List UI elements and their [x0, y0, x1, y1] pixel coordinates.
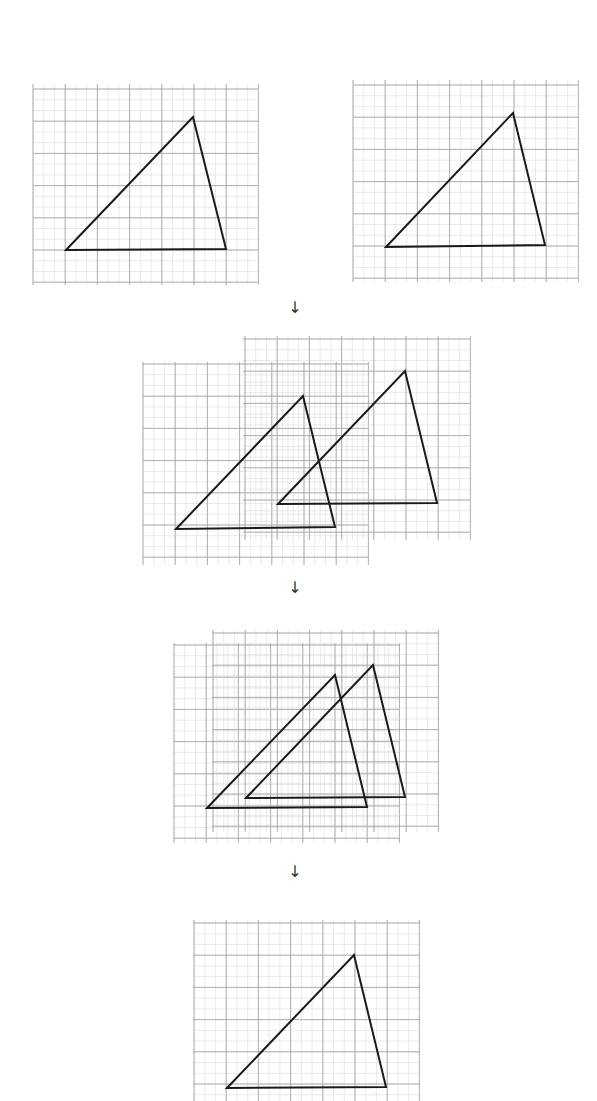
panel-step-4-result: [193, 920, 420, 1101]
down-arrow-icon: ↓: [285, 580, 305, 596]
panel-step-2-overlay: [143, 336, 470, 565]
panel-step-1-left: [33, 84, 258, 285]
grid-paper: [243, 336, 470, 540]
panel-step-1-right: [353, 80, 578, 282]
grid-paper: [33, 84, 258, 285]
triangle-shape: [66, 117, 226, 250]
triangle-shape: [227, 955, 386, 1088]
grid-paper: [193, 920, 420, 1101]
triangle-shape: [386, 113, 545, 247]
down-arrow-icon: ↓: [285, 864, 305, 880]
diagram-canvas: [0, 0, 597, 1101]
panel-step-3-overlay: [174, 630, 439, 843]
down-arrow-icon: ↓: [285, 300, 305, 316]
grid-paper: [353, 80, 578, 282]
